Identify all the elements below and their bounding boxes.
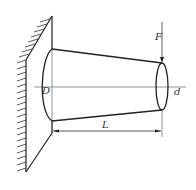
diagram-canvas: F D d L bbox=[0, 0, 196, 190]
small-diameter-label: d bbox=[174, 87, 180, 97]
diagram-drawing bbox=[0, 0, 196, 190]
force-arrow-head bbox=[160, 57, 164, 63]
force-label: F bbox=[155, 32, 162, 42]
cone-top-edge bbox=[52, 49, 162, 63]
length-label: L bbox=[102, 120, 109, 130]
length-arrow-right bbox=[155, 130, 161, 133]
length-arrow-left bbox=[53, 130, 59, 133]
large-diameter-label: D bbox=[42, 86, 50, 96]
small-end-section bbox=[156, 63, 168, 110]
